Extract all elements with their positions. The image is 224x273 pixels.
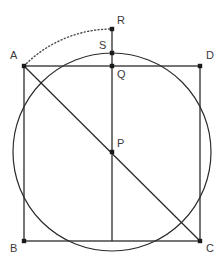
point-dot-P (110, 150, 114, 154)
point-label-C: C (206, 243, 214, 254)
point-dot-A (22, 64, 26, 68)
point-label-A: A (10, 50, 17, 61)
figure-canvas (0, 0, 224, 273)
point-label-B: B (10, 243, 17, 254)
point-label-Q: Q (117, 69, 126, 80)
point-dot-D (198, 64, 202, 68)
geometry-figure: A D B C P Q S R (0, 0, 224, 273)
point-dot-C (198, 239, 202, 243)
point-dot-S (110, 51, 114, 55)
point-dot-Q (110, 64, 114, 68)
point-label-S: S (99, 40, 106, 51)
point-dot-B (22, 239, 26, 243)
point-label-D: D (206, 50, 214, 61)
point-label-P: P (117, 138, 124, 149)
point-label-R: R (117, 15, 125, 26)
point-dot-R (110, 27, 114, 31)
